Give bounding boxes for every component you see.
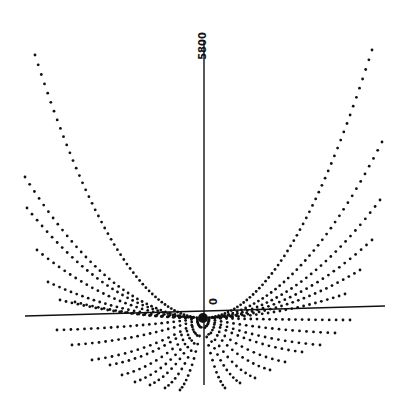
vertical-axis-max-label: 5800 xyxy=(197,32,208,60)
origin-cluster xyxy=(198,313,208,323)
figure: 5800 0 50 xyxy=(0,0,408,420)
dotted-curve-plot xyxy=(0,0,408,420)
origin-zero-label: 0 xyxy=(208,298,219,305)
